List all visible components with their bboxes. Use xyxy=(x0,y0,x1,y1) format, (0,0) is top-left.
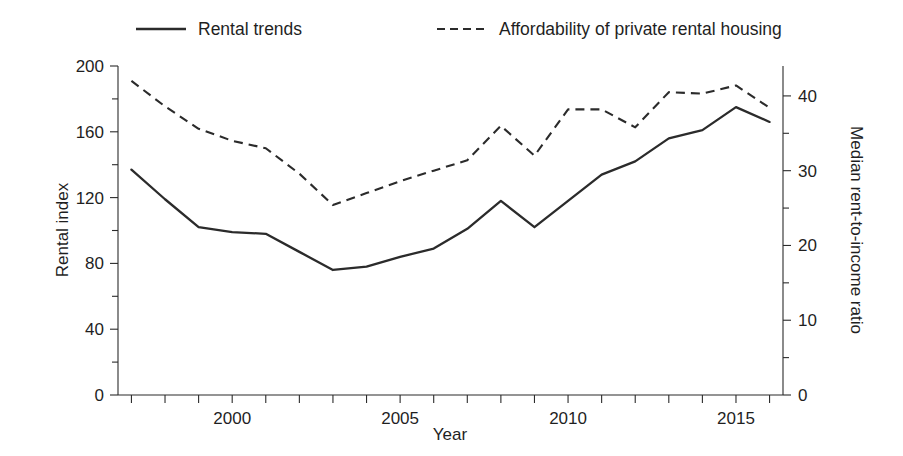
chart-series-layer xyxy=(131,81,769,270)
chart-figure: Rental trends Affordability of private r… xyxy=(0,0,903,456)
right-tick-label: 10 xyxy=(798,311,817,330)
left-tick-label: 120 xyxy=(76,189,104,208)
bottom-tick-label: 2005 xyxy=(381,409,419,428)
right-axis-ticks: 010203040 xyxy=(783,87,817,405)
chart-legend: Rental trends Affordability of private r… xyxy=(136,19,782,39)
bottom-tick-label: 2010 xyxy=(549,409,587,428)
left-tick-label: 160 xyxy=(76,123,104,142)
right-tick-label: 20 xyxy=(798,236,817,255)
right-tick-label: 0 xyxy=(798,386,807,405)
left-tick-label: 0 xyxy=(95,386,104,405)
bottom-tick-label: 2015 xyxy=(717,409,755,428)
series-line-affordability xyxy=(131,81,769,205)
right-tick-label: 30 xyxy=(798,162,817,181)
left-axis-ticks: 04080120160200 xyxy=(76,57,118,405)
series-line-rental-trends xyxy=(131,107,769,270)
bottom-axis-ticks: 2000200520102015 xyxy=(131,395,769,428)
right-axis-title: Median rent-to-income ratio xyxy=(847,126,866,334)
legend-label-affordability: Affordability of private rental housing xyxy=(499,19,782,39)
right-tick-label: 40 xyxy=(798,87,817,106)
left-tick-label: 80 xyxy=(85,254,104,273)
line-chart-svg: Rental trends Affordability of private r… xyxy=(0,0,903,456)
bottom-tick-label: 2000 xyxy=(213,409,251,428)
left-tick-label: 200 xyxy=(76,57,104,76)
left-axis-title: Rental index xyxy=(53,182,72,277)
bottom-axis-title: Year xyxy=(433,425,468,444)
left-tick-label: 40 xyxy=(85,320,104,339)
legend-label-rental-trends: Rental trends xyxy=(198,19,302,39)
